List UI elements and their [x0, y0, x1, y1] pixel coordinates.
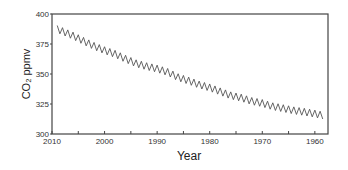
plot-frame: [52, 14, 328, 134]
co2-line: [57, 26, 322, 119]
x-tick-label: 1970: [253, 137, 271, 146]
y-tick-label: 400: [36, 10, 50, 19]
x-axis-title: Year: [177, 149, 201, 163]
x-tick-label: 1990: [148, 137, 166, 146]
y-tick-label: 325: [36, 100, 50, 109]
x-tick-label: 2000: [96, 137, 114, 146]
x-tick-label: 1960: [306, 137, 324, 146]
x-axis: 201020001990198019701960: [43, 131, 324, 146]
y-tick-label: 300: [36, 130, 50, 139]
x-tick-label: 1980: [201, 137, 219, 146]
y-tick-label: 350: [36, 70, 50, 79]
y-tick-label: 375: [36, 40, 50, 49]
y-axis-title: CO₂ ppmv: [20, 48, 32, 99]
y-axis: 300325350375400: [36, 10, 52, 139]
co2-chart: 201020001990198019701960 300325350375400…: [0, 0, 348, 170]
